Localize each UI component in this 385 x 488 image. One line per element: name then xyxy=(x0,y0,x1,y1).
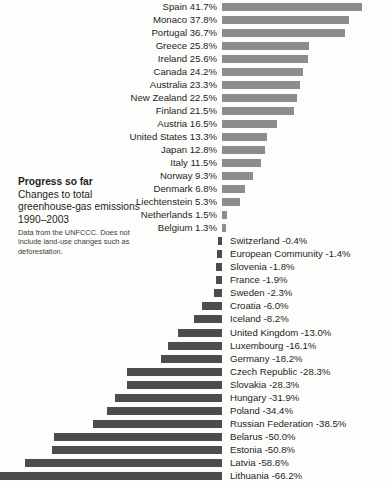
bar-row: European Community -1.4% xyxy=(0,248,385,261)
bar-row: Belarus -50.0% xyxy=(0,431,385,444)
bar-label: Spain 41.7% xyxy=(163,0,217,13)
bar-positive xyxy=(222,120,277,128)
bar-positive xyxy=(222,42,309,50)
bar-label: Netherlands 1.5% xyxy=(141,208,217,221)
bar-negative xyxy=(115,394,222,402)
bar-negative xyxy=(161,355,222,363)
bar-row: Slovakia -28.3% xyxy=(0,379,385,392)
bar-label: Hungary -31.9% xyxy=(230,391,299,404)
bar-label: Germany -18.2% xyxy=(230,352,303,365)
bar-negative xyxy=(194,315,222,323)
bar-label: Russian Federation -38.5% xyxy=(230,417,346,430)
bar-label: Australia 23.3% xyxy=(150,78,217,91)
bar-row: Slovenia -1.8% xyxy=(0,261,385,274)
bar-negative xyxy=(214,289,222,297)
bar-label: Canada 24.2% xyxy=(154,65,217,78)
bar-label: Greece 25.8% xyxy=(156,39,217,52)
bar-label: Slovakia -28.3% xyxy=(230,378,299,391)
bar-positive xyxy=(222,146,265,154)
bar-label: Austria 16.5% xyxy=(157,117,217,130)
bar-label: Italy 11.5% xyxy=(170,156,217,169)
bar-row: Luxembourg -16.1% xyxy=(0,340,385,353)
bar-positive xyxy=(222,55,308,63)
bar-negative xyxy=(0,472,222,480)
bar-negative xyxy=(93,420,222,428)
bar-row: Czech Republic -28.3% xyxy=(0,366,385,379)
bar-positive xyxy=(222,133,267,141)
bar-row: Sweden -2.3% xyxy=(0,287,385,300)
bar-positive xyxy=(222,224,226,232)
bar-row: United Kingdom -13.0% xyxy=(0,327,385,340)
bar-row: Latvia -58.8% xyxy=(0,457,385,470)
bar-positive xyxy=(222,107,294,115)
bar-negative xyxy=(127,368,222,376)
bar-row: France -1.9% xyxy=(0,274,385,287)
bar-negative xyxy=(202,302,222,310)
bar-negative xyxy=(218,237,222,245)
bar-label: Slovenia -1.8% xyxy=(230,260,295,273)
bar-negative xyxy=(178,329,222,337)
bar-negative xyxy=(52,446,222,454)
bar-positive xyxy=(222,29,345,37)
bar-positive xyxy=(222,198,240,206)
bar-row: Lithuania -66.2% xyxy=(0,470,385,483)
bar-label: Monaco 37.8% xyxy=(153,13,217,26)
bar-label: Ireland 25.6% xyxy=(158,52,217,65)
bar-label: Croatia -6.0% xyxy=(230,299,289,312)
bar-label: New Zealand 22.5% xyxy=(131,91,217,104)
bar-positive xyxy=(222,172,253,180)
bar-label: Czech Republic -28.3% xyxy=(230,365,330,378)
bar-positive xyxy=(222,3,362,11)
bar-label: Luxembourg -16.1% xyxy=(230,339,316,352)
bar-label: Iceland -8.2% xyxy=(230,312,289,325)
bar-negative xyxy=(216,276,222,284)
bar-label: European Community -1.4% xyxy=(230,247,351,260)
bar-label: Lithuania -66.2% xyxy=(230,469,302,482)
emissions-bar-chart: Progress so far Changes to total greenho… xyxy=(0,0,385,488)
bar-label: Belarus -50.0% xyxy=(230,430,296,443)
bar-negative xyxy=(127,381,222,389)
bar-positive xyxy=(222,211,227,219)
bar-row: Hungary -31.9% xyxy=(0,392,385,405)
bar-label: Belgium 1.3% xyxy=(158,221,217,234)
bar-label: Denmark 6.8% xyxy=(154,182,217,195)
bar-positive xyxy=(222,81,300,89)
bar-label: Japan 12.8% xyxy=(161,143,217,156)
bar-label: Switzerland -0.4% xyxy=(230,234,307,247)
bar-row: Russian Federation -38.5% xyxy=(0,418,385,431)
bar-positive xyxy=(222,159,261,167)
bar-positive xyxy=(222,16,349,24)
bar-positive xyxy=(222,185,245,193)
bar-label: Norway 9.3% xyxy=(160,169,217,182)
bar-label: Latvia -58.8% xyxy=(230,456,289,469)
bar-label: United Kingdom -13.0% xyxy=(230,326,331,339)
bar-label: Sweden -2.3% xyxy=(230,286,292,299)
bar-label: Estonia -50.8% xyxy=(230,443,295,456)
bar-row: Estonia -50.8% xyxy=(0,444,385,457)
bar-negative xyxy=(168,342,222,350)
bar-label: France -1.9% xyxy=(230,273,288,286)
bar-label: Portugal 36.7% xyxy=(151,26,217,39)
bar-negative xyxy=(54,433,222,441)
bar-negative xyxy=(25,459,222,467)
bar-label: Finland 21.5% xyxy=(156,104,217,117)
bar-positive xyxy=(222,94,297,102)
bar-row: Belgium 1.3% xyxy=(0,222,385,235)
bar-label: United States 13.3% xyxy=(130,130,217,143)
bar-positive xyxy=(222,68,303,76)
bar-label: Liechtenstein 5.3% xyxy=(136,195,217,208)
bar-label: Poland -34.4% xyxy=(230,404,293,417)
bar-negative xyxy=(217,250,222,258)
bar-negative xyxy=(107,407,222,415)
bar-row: Croatia -6.0% xyxy=(0,300,385,313)
bar-negative xyxy=(216,263,222,271)
